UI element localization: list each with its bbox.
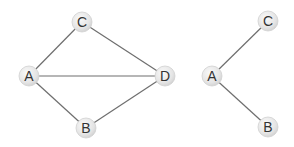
edge-b-d	[86, 76, 165, 128]
node-a: A	[19, 66, 39, 86]
node-b: B	[258, 117, 278, 137]
node-d: D	[155, 66, 175, 86]
node-label: C	[263, 13, 273, 29]
node-label: B	[81, 120, 90, 136]
node-c: C	[258, 11, 278, 31]
edge-a-b	[29, 76, 86, 128]
edge-a-c	[212, 21, 268, 76]
node-c: C	[72, 12, 92, 32]
graph-right: A C B	[202, 11, 278, 137]
node-b: B	[76, 118, 96, 138]
node-a: A	[202, 66, 222, 86]
node-label: D	[160, 68, 170, 84]
graph-left: C A D B	[19, 12, 175, 138]
edge-a-b	[212, 76, 268, 127]
node-label: C	[77, 14, 87, 30]
graph-diagram: C A D B A C B	[0, 0, 294, 147]
edge-a-c	[29, 22, 82, 76]
edge-c-d	[82, 22, 165, 76]
node-label: B	[263, 119, 272, 135]
node-label: A	[207, 68, 217, 84]
node-label: A	[24, 68, 34, 84]
